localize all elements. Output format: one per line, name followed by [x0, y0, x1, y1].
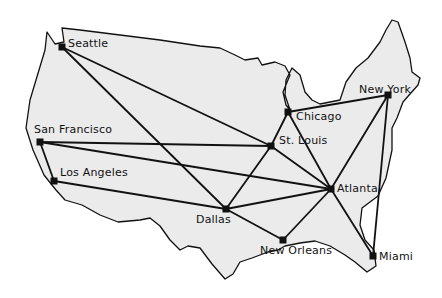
label-atlanta: Atlanta — [337, 182, 378, 195]
node-dallas — [223, 206, 230, 213]
label-new-york: New York — [359, 83, 411, 96]
node-losangeles — [51, 178, 58, 185]
node-miami — [370, 253, 377, 260]
node-atlanta — [328, 186, 335, 193]
node-neworleans — [280, 237, 287, 244]
node-stlouis — [268, 143, 275, 150]
node-chicago — [285, 109, 292, 116]
label-seattle: Seattle — [68, 37, 108, 50]
label-st-louis: St. Louis — [279, 134, 328, 147]
us-network-diagram: Seattle San Francisco Los Angeles St. Lo… — [0, 0, 442, 298]
label-san-francisco: San Francisco — [34, 123, 112, 136]
node-seattle — [59, 44, 66, 51]
map-canvas — [0, 0, 442, 298]
label-los-angeles: Los Angeles — [60, 166, 128, 179]
label-chicago: Chicago — [296, 110, 342, 123]
label-new-orleans: New Orleans — [260, 244, 332, 257]
label-miami: Miami — [379, 250, 413, 263]
label-dallas: Dallas — [196, 213, 231, 226]
node-sanfrancisco — [37, 139, 44, 146]
